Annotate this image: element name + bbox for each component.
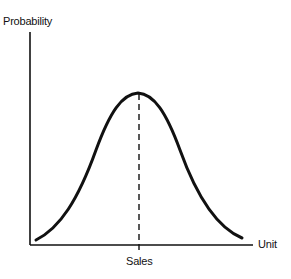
sales-marker-label: Sales: [126, 255, 153, 267]
y-axis-label: Probability: [3, 15, 52, 27]
bell-curve-diagram: [0, 0, 291, 279]
x-axis-label: Unit: [258, 238, 277, 250]
